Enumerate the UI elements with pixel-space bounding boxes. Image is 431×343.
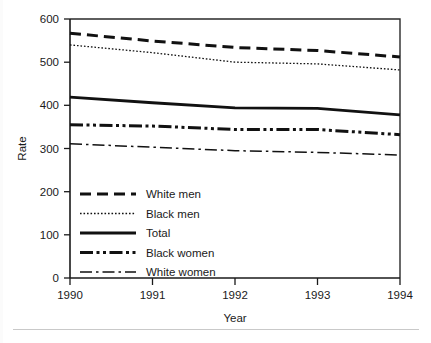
legend-label-white-men: White men: [146, 188, 201, 200]
y-tick-label: 100: [40, 229, 59, 241]
y-tick-label: 0: [53, 272, 59, 284]
x-tick-label: 1991: [140, 289, 166, 301]
legend-label-black-women: Black women: [146, 247, 214, 259]
series-group: [70, 33, 400, 155]
y-tick-label: 600: [40, 13, 59, 25]
x-tick-label: 1992: [222, 289, 248, 301]
y-tick-label: 500: [40, 56, 59, 68]
caption-divider: [13, 329, 419, 330]
series-line-white-men: [70, 33, 400, 57]
x-tick-label: 1994: [387, 289, 413, 301]
series-line-total: [70, 97, 400, 115]
y-axis-ticks: [64, 19, 70, 278]
x-tick-label: 1990: [57, 289, 83, 301]
y-tick-label: 400: [40, 99, 59, 111]
series-line-white-women: [70, 144, 400, 155]
x-axis-title: Year: [223, 312, 246, 324]
caption-text: [16, 334, 316, 343]
plot-frame: [70, 19, 400, 278]
x-axis-tick-labels: 1990 1991 1992 1993 1994: [57, 289, 413, 301]
y-axis-title: Rate: [16, 136, 28, 160]
y-tick-label: 300: [40, 143, 59, 155]
y-axis-tick-labels: 600 500 400 300 200 100 0: [40, 13, 59, 284]
legend-label-total: Total: [146, 227, 170, 239]
chart-legend: White menBlack menTotalBlack womenWhite …: [80, 188, 216, 278]
series-line-black-men: [70, 45, 400, 70]
legend-label-white-women: White women: [146, 266, 216, 278]
x-axis-ticks: [70, 278, 400, 285]
line-chart: 600 500 400 300 200 100 0 1990 1991 1992…: [0, 0, 431, 343]
figure-container: 600 500 400 300 200 100 0 1990 1991 1992…: [0, 0, 431, 343]
x-tick-label: 1993: [305, 289, 331, 301]
series-line-black-women: [70, 125, 400, 135]
y-tick-label: 200: [40, 186, 59, 198]
legend-label-black-men: Black men: [146, 208, 200, 220]
